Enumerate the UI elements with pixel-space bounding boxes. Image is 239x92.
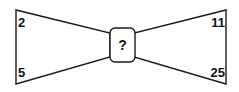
corner-label-top-right: 11 <box>211 16 225 29</box>
left-triangle <box>16 10 110 84</box>
corner-label-top-left: 2 <box>18 16 25 29</box>
corner-label-bottom-left: 5 <box>18 66 25 79</box>
center-unknown-label: ? <box>110 28 135 62</box>
corner-label-bottom-right: 25 <box>211 66 225 79</box>
bowtie-puzzle-diagram: 2 5 11 25 ? <box>0 0 239 92</box>
